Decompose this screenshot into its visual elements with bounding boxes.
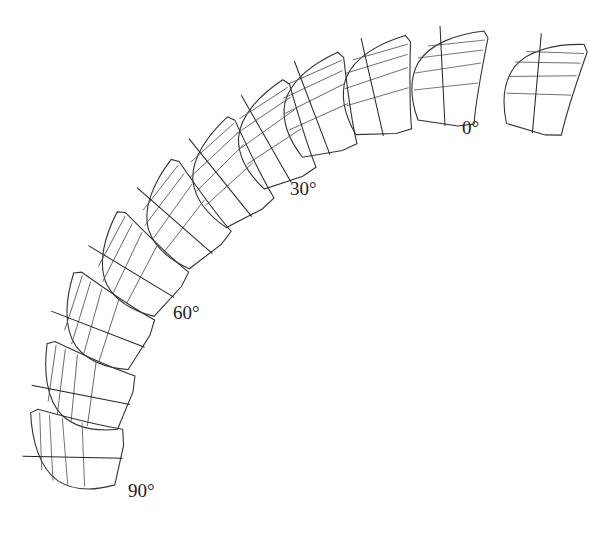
section-90 [21,408,126,491]
angle-label-90: 90° [128,480,155,502]
section-9 [412,26,488,126]
section-0 [500,29,589,139]
section-54 [118,153,243,277]
section-72 [40,267,162,377]
blade-section-diagram [0,0,611,543]
angle-label-60: 60° [173,302,200,324]
angle-label-30: 30° [290,178,317,200]
section-45 [166,110,286,236]
angle-label-0: 0° [462,117,479,139]
